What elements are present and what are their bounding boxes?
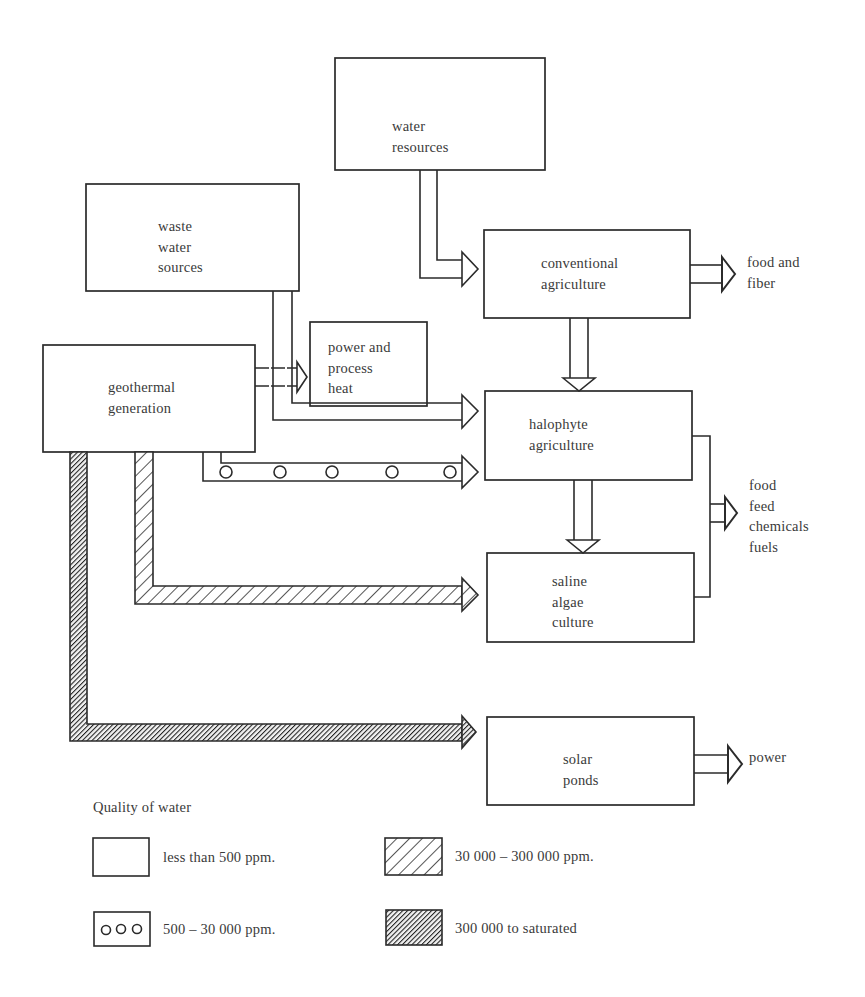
arrow-geothermal-to-saline-algae-saline xyxy=(135,452,478,611)
water-use-diagram: water resources waste water sources geot… xyxy=(0,0,865,997)
legend-swatch-circles xyxy=(94,912,150,946)
legend-title: Quality of water xyxy=(93,797,191,818)
arrow-conventional-to-food-fiber xyxy=(690,257,735,291)
arrow-geothermal-to-power-heat xyxy=(255,362,307,392)
legend-label-dense-hatch: 300 000 to saturated xyxy=(455,918,577,939)
label-solar-ponds: solar ponds xyxy=(563,749,599,790)
label-food-and-fiber: food and fiber xyxy=(747,252,800,293)
legend-label-plain: less than 500 ppm. xyxy=(163,847,275,868)
legend-swatch-plain xyxy=(93,838,149,876)
arrow-halophyte-to-saline-algae xyxy=(567,480,599,553)
label-food-feed-chemicals-fuels: food feed chemicals fuels xyxy=(749,475,809,557)
arrow-geothermal-to-halophyte-brackish xyxy=(203,452,478,488)
label-water-resources: water resources xyxy=(392,116,449,157)
label-power: power xyxy=(749,747,786,768)
label-power-and-process-heat: power and process heat xyxy=(328,337,391,399)
arrow-solar-ponds-to-power xyxy=(694,746,742,782)
bracket-to-food-feed-chemicals-fuels xyxy=(692,436,737,597)
arrow-conventional-to-halophyte xyxy=(563,318,595,391)
label-halophyte-agriculture: halophyte agriculture xyxy=(529,414,594,455)
legend-swatch-coarse-hatch xyxy=(385,838,442,875)
label-waste-water-sources: waste water sources xyxy=(158,216,203,278)
legend-label-coarse-hatch: 30 000 – 300 000 ppm. xyxy=(455,846,594,867)
legend-label-circles: 500 – 30 000 ppm. xyxy=(163,919,276,940)
legend-swatch-dense-hatch xyxy=(386,910,442,945)
label-geothermal-generation: geothermal generation xyxy=(108,377,175,418)
arrow-water-resources-to-conventional xyxy=(420,170,478,286)
label-conventional-agriculture: conventional agriculture xyxy=(541,253,618,294)
label-saline-algae-culture: saline algae culture xyxy=(552,571,594,633)
